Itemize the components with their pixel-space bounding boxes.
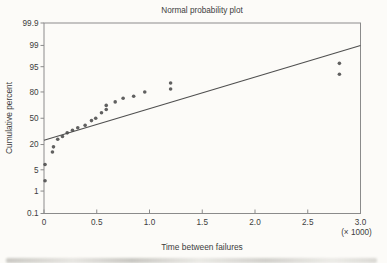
x-tick-label: 1.0 <box>144 218 156 227</box>
x-tick-label: 3.0 <box>355 218 367 227</box>
y-tick-label: 5 <box>34 166 39 175</box>
x-axis-unit-note: (× 1000) <box>341 228 372 237</box>
plot-border <box>44 23 361 214</box>
y-tick-label: 95 <box>29 63 39 72</box>
data-point <box>132 94 136 98</box>
probability-plot-figure: Normal probability plot Cumulative perce… <box>0 0 387 263</box>
data-point <box>100 111 104 115</box>
data-points <box>43 62 341 183</box>
data-point <box>104 108 108 112</box>
data-point <box>76 126 80 130</box>
y-axis-ticks: 99.99995805020510.1 <box>23 19 44 219</box>
x-axis-ticks: 00.51.01.52.02.53.0 <box>42 210 367 227</box>
fit-line-segment <box>44 45 361 140</box>
data-point <box>71 128 75 132</box>
cropped-caption-remnant <box>6 258 377 263</box>
data-point <box>169 87 173 91</box>
data-point <box>94 116 98 120</box>
data-point <box>104 104 108 108</box>
y-axis-label: Cumulative percent <box>4 81 14 154</box>
data-point <box>51 150 55 154</box>
probability-plot-canvas: Normal probability plot Cumulative perce… <box>0 0 387 263</box>
data-point <box>56 137 60 141</box>
x-tick-label: 2.0 <box>249 218 261 227</box>
x-axis-label: Time between failures <box>161 242 243 252</box>
data-point <box>90 119 94 123</box>
data-point <box>338 62 342 66</box>
x-tick-label: 0.5 <box>91 218 103 227</box>
y-tick-label: 0.1 <box>27 209 39 218</box>
y-tick-label: 20 <box>29 140 39 149</box>
data-point <box>338 72 342 76</box>
data-point <box>43 163 47 167</box>
data-point <box>61 135 65 139</box>
chart-title: Normal probability plot <box>161 6 243 15</box>
data-point <box>113 100 117 104</box>
data-point <box>121 96 125 100</box>
y-tick-label: 1 <box>34 187 39 196</box>
data-point <box>43 179 47 183</box>
data-point <box>65 131 69 135</box>
y-tick-label: 99 <box>29 41 39 50</box>
x-tick-label: 2.5 <box>302 218 314 227</box>
data-point <box>143 90 147 94</box>
fit-line <box>44 45 361 140</box>
data-point <box>169 81 173 85</box>
y-tick-label: 50 <box>29 114 39 123</box>
y-tick-label: 99.9 <box>23 19 39 28</box>
data-point <box>52 145 56 149</box>
data-point <box>83 124 87 128</box>
x-tick-label: 1.5 <box>197 218 209 227</box>
y-tick-label: 80 <box>29 88 39 97</box>
x-tick-label: 0 <box>42 218 47 227</box>
